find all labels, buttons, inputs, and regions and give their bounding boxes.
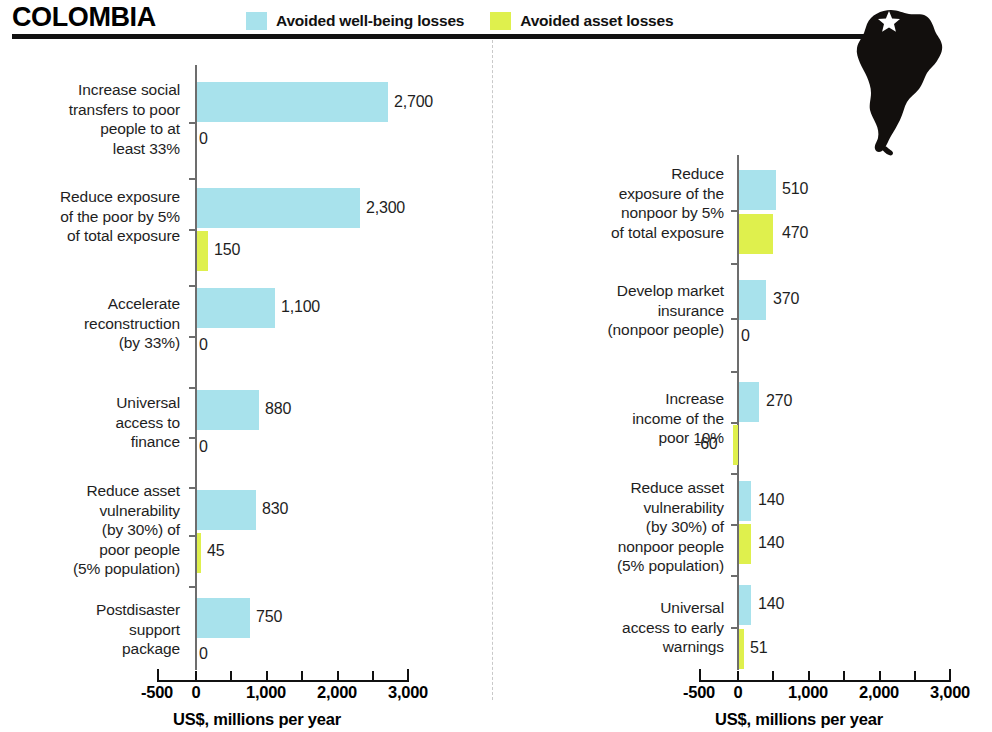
bar-value-label: 510 — [782, 180, 808, 198]
x-tick-label: 3,000 — [373, 683, 443, 702]
x-axis-line — [699, 680, 951, 682]
bar-value-label: 0 — [199, 130, 208, 148]
bar-wellbeing — [739, 280, 766, 320]
x-axis-tick — [949, 669, 951, 682]
category-label: Increase social transfers to poor people… — [8, 80, 180, 158]
bar-wellbeing — [197, 390, 259, 430]
axis-tick — [189, 178, 196, 180]
axis-tick — [731, 318, 738, 320]
bar-asset — [197, 533, 201, 573]
bar-asset — [739, 524, 751, 564]
bar-value-label: 150 — [214, 241, 240, 259]
axis-tick — [189, 535, 196, 537]
bar-wellbeing — [197, 82, 388, 122]
bar-value-label: 45 — [207, 542, 224, 560]
bar-wellbeing — [197, 288, 275, 328]
x-axis-tick — [157, 669, 159, 682]
bar-value-label: 0 — [741, 327, 750, 345]
axis-tick — [731, 263, 738, 265]
x-axis-tick — [808, 671, 810, 680]
bar-wellbeing — [197, 490, 256, 530]
axis-tick — [189, 336, 196, 338]
bar-wellbeing — [739, 170, 776, 210]
category-label: Reduce asset vulnerability (by 30%) of p… — [8, 481, 180, 579]
x-axis-tick — [914, 671, 916, 680]
chart-panel-right: Reduce exposure of the nonpoor by 5% of … — [492, 0, 992, 732]
x-tick-label: 1,000 — [773, 683, 843, 702]
bar-asset — [739, 629, 744, 669]
zero-axis-line — [195, 65, 197, 670]
bar-value-label: 0 — [199, 645, 208, 663]
bar-value-label: 880 — [265, 400, 291, 418]
category-label: Reduce exposure of the poor by 5% of tot… — [8, 187, 180, 246]
axis-tick — [731, 371, 738, 373]
x-axis-title: US$, millions per year — [639, 710, 959, 729]
x-axis-line — [157, 680, 409, 682]
axis-tick — [731, 627, 738, 629]
x-axis-title: US$, millions per year — [97, 710, 417, 729]
axis-tick — [189, 229, 196, 231]
axis-tick — [189, 122, 196, 124]
bar-wellbeing — [197, 188, 360, 228]
x-tick-label: 2,000 — [302, 683, 372, 702]
bar-value-label: 140 — [758, 595, 784, 613]
bar-value-label: 140 — [758, 491, 784, 509]
bar-value-label: 0 — [199, 336, 208, 354]
bar-value-label: 750 — [256, 608, 282, 626]
category-label: Accelerate reconstruction (by 33%) — [8, 294, 180, 353]
axis-tick — [189, 586, 196, 588]
x-axis-tick — [879, 671, 881, 680]
bar-value-label: 1,100 — [281, 298, 320, 316]
x-tick-label: 2,000 — [844, 683, 914, 702]
axis-tick — [731, 210, 738, 212]
axis-tick — [731, 473, 738, 475]
x-axis-tick — [737, 671, 739, 680]
x-tick-label: 1,000 — [231, 683, 301, 702]
bar-asset-negative — [733, 425, 738, 465]
bar-value-label: -60 — [695, 435, 718, 453]
bar-value-label: 2,300 — [366, 199, 405, 217]
bar-value-label: 830 — [262, 500, 288, 518]
bar-wellbeing — [739, 382, 759, 422]
x-axis-tick — [195, 671, 197, 680]
x-axis-tick — [699, 669, 701, 682]
x-tick-label: 0 — [718, 683, 758, 702]
axis-tick — [189, 487, 196, 489]
bar-asset — [197, 231, 208, 271]
axis-tick — [189, 387, 196, 389]
x-axis-tick — [843, 671, 845, 680]
category-label: Reduce asset vulnerability (by 30%) of n… — [532, 478, 724, 576]
axis-tick — [731, 524, 738, 526]
category-label: Reduce exposure of the nonpoor by 5% of … — [532, 164, 724, 242]
axis-tick — [189, 437, 196, 439]
x-axis-tick — [301, 671, 303, 680]
x-tick-label: 0 — [176, 683, 216, 702]
x-axis-tick — [266, 671, 268, 680]
chart-panel-left: Increase social transfers to poor people… — [0, 0, 492, 732]
bar-value-label: 51 — [750, 639, 767, 657]
bar-wellbeing — [739, 585, 751, 625]
x-axis-tick — [372, 671, 374, 680]
axis-tick — [731, 422, 738, 424]
category-label: Universal access to finance — [8, 393, 180, 452]
bar-wellbeing — [197, 598, 250, 638]
bar-value-label: 270 — [766, 392, 792, 410]
bar-value-label: 140 — [758, 534, 784, 552]
x-axis-tick — [772, 671, 774, 680]
axis-tick — [731, 575, 738, 577]
x-axis-tick — [337, 671, 339, 680]
bar-wellbeing — [739, 481, 751, 521]
axis-tick — [189, 285, 196, 287]
bar-value-label: 2,700 — [394, 93, 433, 111]
bar-value-label: 370 — [773, 290, 799, 308]
chart-page: COLOMBIA Avoided well-being losses Avoid… — [0, 0, 992, 732]
category-label: Universal access to early warnings — [532, 598, 724, 657]
x-axis-tick — [407, 669, 409, 682]
bar-asset — [739, 214, 773, 254]
bar-value-label: 0 — [199, 438, 208, 456]
bar-value-label: 470 — [782, 224, 808, 242]
category-label: Postdisaster support package — [8, 600, 180, 659]
category-label: Develop market insurance (nonpoor people… — [532, 281, 724, 340]
x-axis-tick — [230, 671, 232, 680]
x-tick-label: 3,000 — [915, 683, 985, 702]
